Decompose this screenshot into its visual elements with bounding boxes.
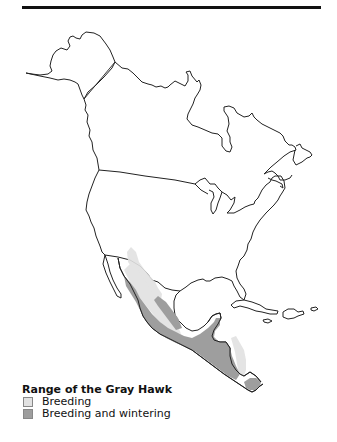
gulf-coast	[174, 291, 261, 382]
puerto-rico	[311, 307, 318, 311]
legend-item-breeding-and-wintering: Breeding and wintering	[22, 408, 172, 420]
labrador-outline	[264, 144, 312, 174]
map-legend: Range of the Gray Hawk Breeding Breeding…	[22, 384, 172, 420]
west-coast	[84, 99, 105, 255]
north-america-map	[0, 0, 337, 442]
great-lakes	[195, 176, 275, 214]
jamaica	[263, 319, 272, 323]
east-coast	[180, 176, 285, 300]
cuba	[231, 300, 278, 314]
legend-label: Breeding and wintering	[42, 408, 171, 420]
breeding-swatch	[23, 397, 33, 407]
breeding-wintering-swatch	[23, 409, 33, 419]
canada-north-coast	[115, 62, 296, 152]
us-canada-border	[99, 170, 208, 194]
alaska-outline	[26, 32, 115, 99]
hispaniola	[283, 309, 304, 319]
